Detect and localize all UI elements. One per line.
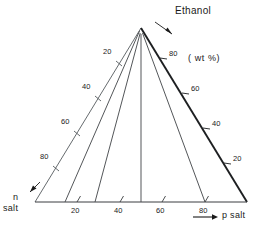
bottom-tick-20 — [77, 196, 81, 202]
right-tick-label-60: 60 — [191, 85, 200, 93]
bottom-tick-label-60: 60 — [156, 207, 165, 215]
left-tick-label-60: 60 — [61, 118, 70, 126]
left-tick-label-40: 40 — [82, 83, 91, 91]
ternary-diagram-canvas — [0, 0, 276, 236]
right-tick-40 — [203, 128, 210, 129]
right-tick-80 — [160, 58, 167, 59]
left-tick-20 — [116, 61, 122, 66]
left-tick-label-20: 20 — [103, 48, 112, 56]
bottom-tick-60 — [162, 196, 166, 202]
right-tick-label-20: 20 — [233, 155, 242, 163]
left-tick-label-80: 80 — [40, 153, 49, 161]
right-tick-20 — [224, 163, 231, 164]
bottom-tick-label-80: 80 — [199, 207, 208, 215]
right-tick-label-40: 40 — [212, 120, 221, 128]
apex-label-ethanol: Ethanol — [175, 6, 211, 17]
bottom-tick-80 — [205, 196, 209, 202]
p-salt-arrowhead-icon — [212, 214, 218, 219]
tie-lines-group — [65, 31, 205, 202]
right-corner-label: p salt — [222, 211, 245, 220]
left-axis-line — [35, 28, 141, 202]
right-axis-ticks — [160, 58, 231, 164]
left-tick-60 — [74, 131, 80, 136]
right-tick-label-80: 80 — [169, 50, 178, 58]
right-tick-60 — [182, 93, 189, 94]
ethanol-arrowhead-icon — [166, 28, 173, 35]
ternary-diagram-page: Ethanol ( wt %) 20 40 60 80 80 60 40 20 … — [0, 0, 276, 236]
left-tick-40 — [95, 96, 101, 101]
left-corner-label-line2: salt — [3, 204, 18, 213]
units-label: ( wt %) — [188, 54, 220, 63]
pointer-arrows — [30, 22, 218, 220]
bottom-tick-label-20: 20 — [71, 207, 80, 215]
bottom-tick-label-40: 40 — [114, 207, 123, 215]
bottom-tick-40 — [120, 196, 124, 202]
left-corner-label-line1: n — [13, 193, 18, 202]
